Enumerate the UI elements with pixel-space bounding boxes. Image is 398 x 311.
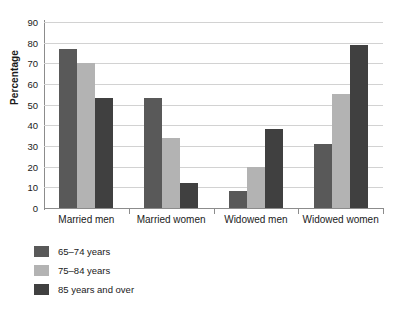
x-axis-group-tick [383,209,384,214]
legend-swatch-icon [34,265,49,276]
legend-swatch-icon [34,246,49,257]
bar [229,191,247,208]
y-axis-tick-label: 70 [27,58,38,69]
legend-label: 65–74 years [58,246,110,257]
bar [144,98,162,208]
bar [314,144,332,208]
y-axis-tick-label: 30 [27,141,38,152]
y-axis-tick-label: 40 [27,120,38,131]
bar [162,138,180,208]
legend-label: 75–84 years [58,265,110,276]
x-axis-tick-label: Widowed women [303,214,379,225]
bar [265,129,283,208]
bar-group [314,22,368,208]
y-axis-label: Percentage [9,38,20,118]
bar [247,167,265,208]
bar-group [59,22,113,208]
bar-group [229,22,283,208]
legend-item[interactable]: 85 years and over [34,280,134,299]
x-axis-group-tick [298,209,299,214]
legend-item[interactable]: 75–84 years [34,261,134,280]
bar [59,49,77,208]
bar-chart-figure: Percentage 9080706050403020100 Married m… [0,0,398,311]
bar [95,98,113,208]
y-axis-tick-label: 90 [27,17,38,28]
bar [350,45,368,208]
y-axis-tick-label: 60 [27,79,38,90]
legend-item[interactable]: 65–74 years [34,242,134,261]
y-axis-tick-label: 10 [27,182,38,193]
x-axis-group-tick [129,209,130,214]
x-axis-tick-label: Married women [137,214,206,225]
bar [332,94,350,208]
x-axis-tick-label: Married men [58,214,114,225]
plot-area: 9080706050403020100 [44,22,383,208]
y-axis-tick-label: 20 [27,161,38,172]
y-axis-tick-label: 0 [33,203,38,214]
chart-legend: 65–74 years75–84 years85 years and over [34,242,134,299]
x-axis-group-tick [214,209,215,214]
bar [180,183,198,208]
legend-swatch-icon [34,284,49,295]
x-axis-tick-label: Widowed men [224,214,287,225]
bar-group [144,22,198,208]
bar [77,63,95,208]
legend-label: 85 years and over [58,284,134,295]
y-axis-tick-label: 50 [27,99,38,110]
y-axis-tick-label: 80 [27,37,38,48]
